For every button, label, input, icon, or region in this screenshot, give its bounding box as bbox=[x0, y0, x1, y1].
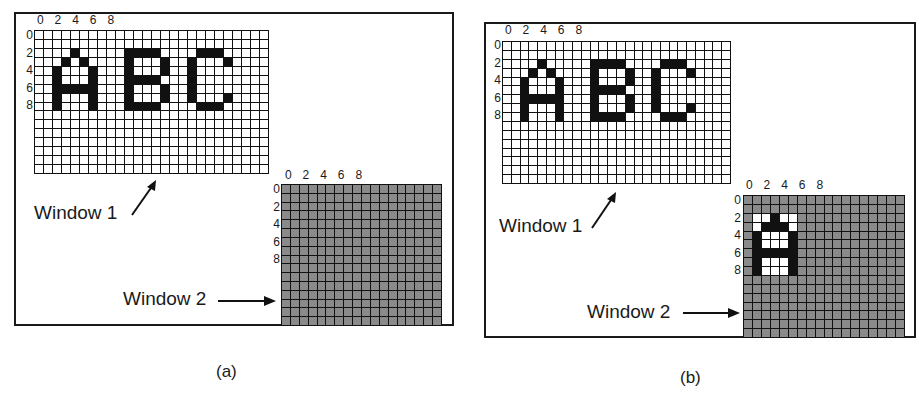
pixel-cell bbox=[887, 294, 895, 302]
pixel-cell bbox=[62, 67, 70, 75]
pixel-cell bbox=[398, 185, 406, 193]
panel-a-window2-x-axis: 0 2 4 6 8 bbox=[285, 168, 373, 182]
pixel-cell bbox=[224, 120, 232, 128]
panel-b-caption: (b) bbox=[680, 368, 701, 388]
pixel-cell bbox=[224, 94, 232, 102]
pixel-cell bbox=[309, 264, 317, 272]
pixel-cell bbox=[35, 31, 43, 39]
pixel-cell bbox=[887, 232, 895, 240]
pixel-cell bbox=[661, 131, 669, 139]
pixel-cell bbox=[98, 111, 106, 119]
pixel-cell bbox=[335, 247, 343, 255]
pixel-cell bbox=[80, 111, 88, 119]
x-tick: 0 bbox=[746, 178, 764, 192]
pixel-cell bbox=[424, 300, 432, 308]
pixel-cell bbox=[582, 42, 590, 50]
pixel-cell bbox=[503, 157, 511, 165]
pixel-cell bbox=[161, 147, 169, 155]
pixel-cell bbox=[670, 78, 678, 86]
pixel-cell bbox=[161, 129, 169, 137]
pixel-cell bbox=[353, 317, 361, 325]
pixel-cell bbox=[713, 113, 721, 121]
pixel-cell bbox=[107, 49, 115, 57]
pixel-cell bbox=[878, 267, 886, 275]
pixel-cell bbox=[326, 291, 334, 299]
pixel-cell bbox=[362, 308, 370, 316]
pixel-cell bbox=[744, 258, 752, 266]
pixel-cell bbox=[188, 85, 196, 93]
pixel-cell bbox=[143, 120, 151, 128]
x-tick: 8 bbox=[107, 13, 125, 27]
pixel-cell bbox=[143, 94, 151, 102]
pixel-cell bbox=[705, 113, 713, 121]
pixel-cell bbox=[433, 194, 441, 202]
pixel-cell bbox=[398, 238, 406, 246]
pixel-cell bbox=[371, 194, 379, 202]
pixel-cell bbox=[869, 196, 877, 204]
pixel-cell bbox=[599, 104, 607, 112]
pixel-cell bbox=[188, 120, 196, 128]
pixel-cell bbox=[599, 157, 607, 165]
pixel-cell bbox=[242, 49, 250, 57]
pixel-cell bbox=[309, 203, 317, 211]
pixel-cell bbox=[608, 175, 616, 183]
pixel-cell bbox=[215, 165, 223, 173]
pixel-cell bbox=[573, 131, 581, 139]
pixel-cell bbox=[35, 67, 43, 75]
pixel-cell bbox=[896, 276, 904, 284]
pixel-cell bbox=[116, 58, 124, 66]
pixel-cell bbox=[161, 111, 169, 119]
pixel-cell bbox=[503, 69, 511, 77]
pixel-cell bbox=[215, 49, 223, 57]
pixel-cell bbox=[406, 291, 414, 299]
pixel-cell bbox=[143, 40, 151, 48]
pixel-cell bbox=[335, 194, 343, 202]
pixel-cell bbox=[282, 238, 290, 246]
pixel-cell bbox=[344, 194, 352, 202]
pixel-cell bbox=[878, 232, 886, 240]
pixel-cell bbox=[798, 232, 806, 240]
pixel-cell bbox=[80, 76, 88, 84]
pixel-cell bbox=[143, 103, 151, 111]
pixel-cell bbox=[260, 49, 268, 57]
pixel-cell bbox=[652, 122, 660, 130]
pixel-cell bbox=[529, 104, 537, 112]
pixel-cell bbox=[98, 156, 106, 164]
pixel-cell bbox=[842, 240, 850, 248]
pixel-cell bbox=[161, 76, 169, 84]
pixel-cell bbox=[722, 175, 730, 183]
pixel-cell bbox=[635, 51, 643, 59]
pixel-cell bbox=[62, 147, 70, 155]
pixel-cell bbox=[744, 276, 752, 284]
pixel-cell bbox=[860, 267, 868, 275]
pixel-cell bbox=[529, 113, 537, 121]
pixel-cell bbox=[599, 69, 607, 77]
pixel-cell bbox=[353, 238, 361, 246]
pixel-cell bbox=[512, 149, 520, 157]
pixel-cell bbox=[591, 157, 599, 165]
pixel-cell bbox=[362, 291, 370, 299]
pixel-cell bbox=[80, 94, 88, 102]
pixel-cell bbox=[53, 31, 61, 39]
pixel-cell bbox=[62, 76, 70, 84]
pixel-cell bbox=[753, 214, 761, 222]
pixel-cell bbox=[722, 131, 730, 139]
pixel-cell bbox=[771, 240, 779, 248]
pixel-cell bbox=[547, 60, 555, 68]
pixel-cell bbox=[582, 69, 590, 77]
pixel-cell bbox=[617, 78, 625, 86]
pixel-cell bbox=[529, 157, 537, 165]
pixel-cell bbox=[291, 185, 299, 193]
pixel-cell bbox=[291, 247, 299, 255]
pixel-cell bbox=[705, 60, 713, 68]
pixel-cell bbox=[89, 31, 97, 39]
pixel-cell bbox=[188, 103, 196, 111]
pixel-cell bbox=[44, 85, 52, 93]
pixel-cell bbox=[125, 49, 133, 57]
pixel-cell bbox=[762, 294, 770, 302]
pixel-cell bbox=[780, 223, 788, 231]
pixel-cell bbox=[869, 258, 877, 266]
pixel-cell bbox=[789, 285, 797, 293]
pixel-cell bbox=[869, 232, 877, 240]
pixel-cell bbox=[188, 111, 196, 119]
